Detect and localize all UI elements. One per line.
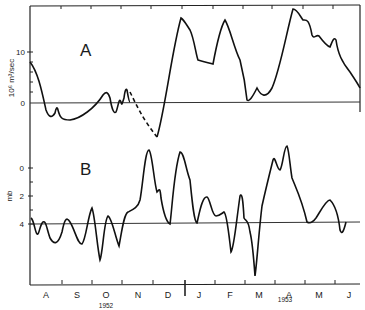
- month-label: F: [227, 290, 233, 300]
- panel-a-zero-line: [30, 102, 360, 103]
- month-label: J: [197, 290, 202, 300]
- month-label: A: [43, 290, 49, 300]
- panel-b-ylabel: mb: [5, 190, 14, 202]
- panel-b-ytick-4: 4: [20, 220, 25, 229]
- year-label-1952: 1952: [99, 302, 114, 309]
- panel-a-ytick-0: 0: [21, 99, 26, 108]
- month-label: J: [347, 290, 352, 300]
- panel-b-label: B: [80, 160, 91, 179]
- month-label: D: [165, 290, 172, 300]
- panel-b-ytick-2: 2: [20, 192, 25, 201]
- chart-figure: 10 0 10⁶ m³/sec A 0 2 4 mb B A S O N D J…: [0, 0, 365, 310]
- month-label: M: [315, 290, 323, 300]
- panel-b-ytick-0: 0: [20, 164, 25, 173]
- panel-a-series-dashed: [130, 92, 157, 137]
- month-label: M: [255, 290, 263, 300]
- panel-a-series-1953: [157, 9, 360, 137]
- panel-a-series-1952: [30, 62, 130, 120]
- month-label: S: [74, 290, 80, 300]
- year-label-1953: 1953: [278, 296, 293, 303]
- panel-a-label: A: [80, 41, 92, 60]
- panel-b-series: [31, 146, 346, 276]
- month-label: N: [135, 290, 142, 300]
- panel-a-ytick-10: 10: [16, 48, 25, 57]
- panel-a-ylabel: 10⁶ m³/sec: [7, 59, 16, 97]
- x-axis-month-labels: A S O N D J F M A M J: [43, 290, 351, 300]
- month-label: O: [102, 290, 109, 300]
